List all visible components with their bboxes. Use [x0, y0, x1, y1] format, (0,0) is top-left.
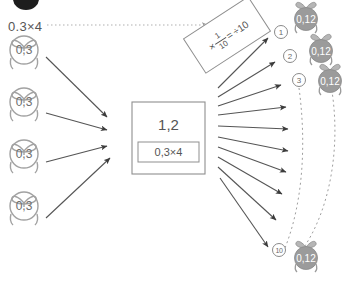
arrow-icon: [220, 178, 268, 247]
right-bag-value: 0,12: [316, 77, 344, 87]
arrow-icon: [218, 167, 276, 220]
left-bag-value: 0,3: [10, 96, 38, 108]
diagram-vector-layer: [0, 0, 350, 285]
step-number-circle: 10: [272, 243, 286, 257]
dashed-curve-icon: [300, 80, 335, 253]
arrow-icon: [46, 146, 107, 162]
arrow-icon: [218, 107, 286, 115]
left-bag-value: 0,3: [10, 44, 38, 56]
right-bag-value: 0,12: [292, 254, 320, 264]
step-number-circle: 3: [292, 73, 306, 87]
arrow-icon: [218, 137, 288, 151]
dashed-curve-icon: [285, 88, 303, 248]
source-expression-label: 0.3×4: [8, 20, 42, 33]
left-bag-value: 0,3: [10, 200, 38, 212]
arrow-icon: [218, 126, 288, 129]
arrow-icon: [46, 57, 107, 117]
rule-suffix: ÷10: [230, 18, 250, 36]
right-bag-value: 0,12: [307, 47, 335, 57]
center-result-value: 1,2: [132, 117, 205, 132]
arrow-fan-group: [218, 38, 288, 247]
arrow-icon: [46, 158, 110, 218]
left-bag-value: 0,3: [10, 148, 38, 160]
center-expression-value: 0,3×4: [138, 147, 199, 158]
arrow-icon: [218, 147, 286, 172]
step-number-circle: 1: [274, 25, 288, 39]
math-diagram-canvas: 0.3×4 0,3 0,3 0,3 0,3 1,2 0,3×4 × 1 10 =…: [0, 0, 350, 285]
arrow-icon: [218, 85, 281, 106]
arrow-icon: [46, 113, 107, 130]
center-result-box: [132, 102, 205, 174]
step-number-circle: 2: [283, 49, 297, 63]
right-bag-value: 0,12: [292, 15, 320, 25]
